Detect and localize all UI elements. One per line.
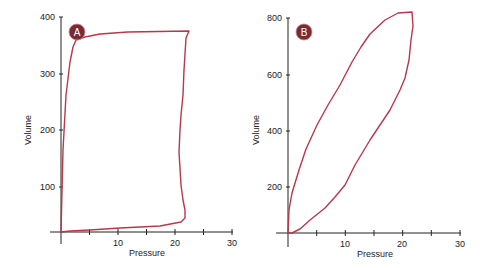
y-axis-label: Volume <box>23 115 33 145</box>
x-tick-label: 10 <box>113 238 123 248</box>
x-axis-label: Pressure <box>129 248 165 258</box>
panel-label-b: B <box>301 27 308 38</box>
y-tick-label: 800 <box>267 13 282 23</box>
x-axis-label: Pressure <box>357 249 393 259</box>
x-tick-label: 20 <box>170 238 180 248</box>
y-tick-label: 600 <box>267 70 282 80</box>
panel-label-a: A <box>74 27 81 38</box>
pv-loop-curve-a <box>61 31 189 232</box>
x-tick-label: 20 <box>397 239 407 249</box>
y-tick-label: 100 <box>40 182 55 192</box>
x-tick-label: 30 <box>227 238 237 248</box>
y-axis-label: Volume <box>251 115 261 145</box>
y-tick-label: 300 <box>40 69 55 79</box>
panel-a: 400 300 200 100 10 20 30 Pressure Volume… <box>23 12 237 258</box>
panel-b: 800 600 400 200 10 20 30 Pressure Volume… <box>251 12 465 259</box>
y-tick-label: 400 <box>40 12 55 22</box>
x-tick-label: 10 <box>340 239 350 249</box>
pv-loop-curve-b <box>288 12 413 233</box>
y-tick-label: 200 <box>40 125 55 135</box>
x-tick-label: 30 <box>455 239 465 249</box>
y-tick-label: 400 <box>267 126 282 136</box>
chart-figure: 400 300 200 100 10 20 30 Pressure Volume… <box>0 0 485 268</box>
y-tick-label: 200 <box>267 182 282 192</box>
